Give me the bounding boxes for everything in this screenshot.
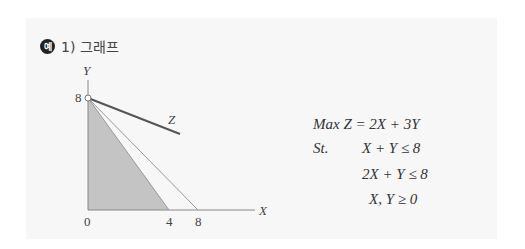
x-axis-label: X	[258, 203, 268, 218]
constraint-2: 2X + Y ≤ 8	[362, 166, 428, 183]
constraint-nonnegativity: X, Y ≥ 0	[369, 191, 417, 208]
lp-graph: Y X 8 0 4 8 Z	[0, 0, 525, 249]
y-axis-label: Y	[83, 63, 92, 78]
objective-label: Z	[168, 112, 176, 127]
constraint-1: X + Y ≤ 8	[362, 140, 420, 157]
x-tick-8: 8	[195, 214, 202, 229]
origin-label: 0	[84, 214, 91, 229]
objective-function: Max Z = 2X + 3Y	[313, 116, 420, 133]
x-tick-4: 4	[166, 214, 173, 229]
optimal-point	[85, 95, 91, 101]
subject-to-label: St.	[313, 140, 328, 157]
y-tick-8: 8	[75, 90, 82, 105]
